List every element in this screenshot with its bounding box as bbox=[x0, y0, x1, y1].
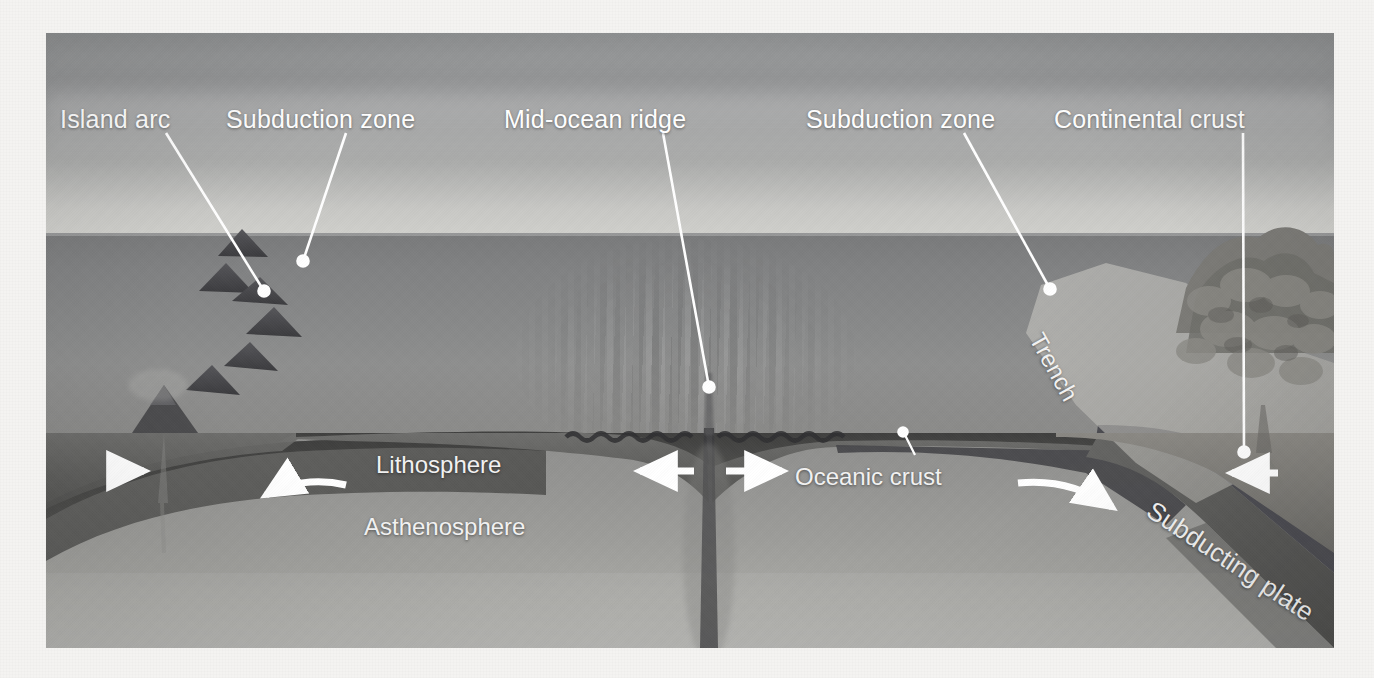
leader-mid-ocean-ridge bbox=[663, 133, 715, 393]
leader-subduction-left bbox=[298, 133, 347, 267]
label-lithosphere: Lithosphere bbox=[376, 451, 501, 479]
label-continental-crust: Continental crust bbox=[1054, 105, 1245, 134]
mid-ocean-ridge-crest bbox=[566, 373, 844, 648]
page-background: Island arc Subduction zone Mid-ocean rid… bbox=[0, 0, 1374, 678]
label-subduction-zone-right: Subduction zone bbox=[806, 105, 995, 134]
label-mid-ocean-ridge: Mid-ocean ridge bbox=[504, 105, 686, 134]
label-asthenosphere: Asthenosphere bbox=[364, 513, 525, 541]
leader-subduction-right bbox=[964, 133, 1056, 295]
plate-tectonics-figure: Island arc Subduction zone Mid-ocean rid… bbox=[46, 33, 1334, 648]
label-subduction-zone-left: Subduction zone bbox=[226, 105, 415, 134]
label-island-arc: Island arc bbox=[60, 105, 170, 134]
label-oceanic-crust: Oceanic crust bbox=[795, 463, 942, 491]
arrow-right-slab-curved bbox=[1018, 482, 1112, 507]
